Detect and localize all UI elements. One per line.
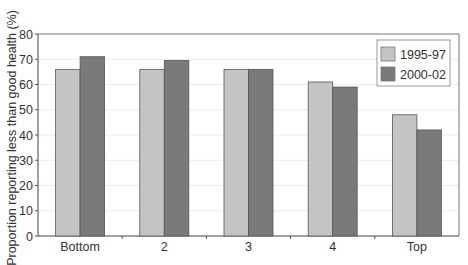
bar <box>56 69 81 236</box>
x-category-label: 3 <box>245 240 252 254</box>
bar <box>308 82 333 236</box>
x-category-label: Top <box>407 240 427 254</box>
x-category-label: 2 <box>161 240 168 254</box>
legend-label: 2000-02 <box>400 68 446 82</box>
y-tick-label: 10 <box>19 204 33 218</box>
legend-label: 1995-97 <box>400 48 446 62</box>
y-tick-label: 60 <box>19 78 33 92</box>
bar <box>249 69 274 236</box>
bar <box>164 61 189 236</box>
legend-swatch <box>381 67 395 81</box>
bar <box>224 69 249 236</box>
y-tick-label: 40 <box>19 129 33 143</box>
y-tick-label: 0 <box>26 230 33 244</box>
x-category-label: 4 <box>329 240 336 254</box>
bar <box>417 130 442 236</box>
bar <box>80 57 105 236</box>
y-tick-label: 20 <box>19 179 33 193</box>
legend-swatch <box>381 47 395 61</box>
y-tick-label: 30 <box>19 154 33 168</box>
y-tick-label: 50 <box>19 103 33 117</box>
y-tick-label: 80 <box>19 28 33 42</box>
bar <box>333 87 358 236</box>
bar <box>392 115 417 236</box>
bar <box>140 69 165 236</box>
x-category-label: Bottom <box>60 240 100 254</box>
y-tick-label: 70 <box>19 53 33 67</box>
